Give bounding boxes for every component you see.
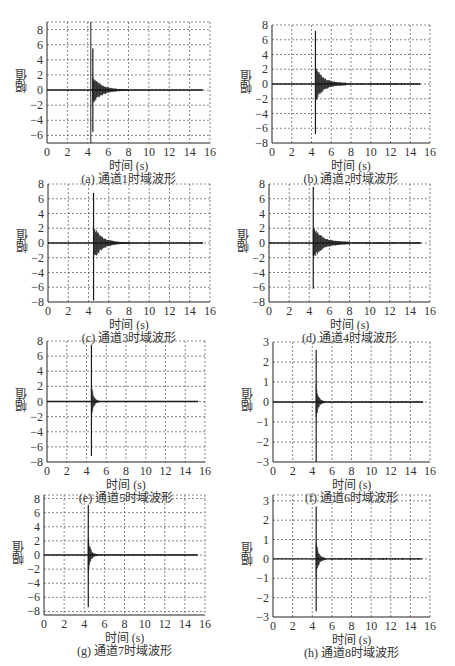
waveform [272, 31, 420, 134]
y-tick-label: −6 [30, 128, 43, 142]
y-tick-label: 0 [263, 395, 269, 409]
y-tick-label: 4 [38, 207, 44, 221]
y-axis-label: 幅值 [14, 229, 31, 253]
y-tick-label: 8 [259, 177, 265, 191]
waveform [273, 350, 423, 462]
y-tick-label: −3 [256, 610, 269, 624]
y-tick-label: 4 [262, 48, 268, 62]
y-axis-label: 幅值 [239, 388, 256, 412]
y-tick-label: −4 [255, 107, 268, 121]
plot-area: 0246810121416−3−2−10123 [273, 342, 430, 462]
y-tick-label: −8 [255, 136, 268, 150]
panel-caption: (g) 通道7时域波形 [44, 641, 205, 659]
y-tick-label: 2 [37, 68, 43, 82]
y-tick-label: −2 [256, 435, 269, 449]
waveform [48, 193, 203, 301]
y-tick-label: 2 [263, 355, 269, 369]
chart-panel-a: 0246810121416−6−4−202468 [47, 22, 210, 143]
y-tick-label: −2 [256, 591, 269, 605]
y-tick-label: 4 [37, 53, 43, 67]
y-tick-label: 2 [38, 221, 44, 235]
y-tick-label: 2 [263, 513, 269, 527]
plot-area: 0246810121416−8−6−4−202468 [272, 25, 430, 143]
y-tick-label: 4 [34, 520, 40, 534]
y-tick-label: −8 [31, 295, 44, 309]
chart-panel-g: 0246810121416−8−6−4−202468 [44, 495, 205, 615]
y-tick-label: −4 [30, 425, 43, 439]
chart-panel-d: 0246810121416−8−6−4−202468 [269, 184, 430, 302]
y-tick-label: −6 [27, 590, 40, 604]
y-tick-label: 8 [262, 18, 268, 32]
y-tick-label: −8 [252, 295, 265, 309]
y-tick-label: −2 [30, 98, 43, 112]
y-tick-label: 8 [38, 177, 44, 191]
panel-caption: (h) 通道8时域波形 [273, 643, 430, 661]
plot-area: 0246810121416−8−6−4−202468 [48, 184, 210, 302]
y-tick-label: 8 [37, 23, 43, 37]
plot-area: 0246810121416−8−6−4−202468 [47, 341, 205, 462]
y-tick-label: −6 [31, 280, 44, 294]
y-tick-label: −1 [256, 571, 269, 585]
plot-area: 0246810121416−6−4−202468 [47, 22, 210, 143]
y-tick-label: −8 [30, 455, 43, 469]
waveform [47, 48, 203, 131]
y-axis-label: 幅值 [13, 69, 30, 93]
chart-panel-f: 0246810121416−3−2−10123 [273, 342, 430, 462]
y-tick-label: 1 [263, 533, 269, 547]
y-tick-label: 8 [34, 492, 40, 506]
y-axis-label: 幅值 [239, 542, 256, 566]
chart-panel-e: 0246810121416−8−6−4−202468 [47, 341, 205, 462]
chart-panel-h: 0246810121416−3−2−10123 [273, 495, 430, 617]
y-tick-label: −1 [256, 415, 269, 429]
y-tick-label: 0 [262, 77, 268, 91]
y-tick-label: −4 [31, 266, 44, 280]
waveform [47, 345, 198, 456]
y-axis-label: 幅值 [13, 388, 30, 412]
y-tick-label: 6 [262, 33, 268, 47]
y-axis-label: 幅值 [10, 541, 27, 565]
waveform [269, 187, 421, 289]
y-tick-label: −3 [256, 455, 269, 469]
y-tick-label: −6 [252, 280, 265, 294]
y-axis-label: 幅值 [235, 229, 252, 253]
y-tick-label: 2 [259, 221, 265, 235]
y-tick-label: 6 [37, 38, 43, 52]
y-tick-label: −2 [252, 251, 265, 265]
y-tick-label: 8 [37, 334, 43, 348]
y-tick-label: 6 [259, 192, 265, 206]
y-tick-label: −2 [30, 410, 43, 424]
plot-area: 0246810121416−3−2−10123 [273, 495, 430, 617]
y-tick-label: −4 [30, 113, 43, 127]
waveform [273, 507, 422, 612]
y-tick-label: 0 [37, 395, 43, 409]
grid [273, 495, 430, 617]
y-tick-label: −2 [255, 92, 268, 106]
y-tick-label: 3 [263, 335, 269, 349]
y-tick-label: −8 [27, 604, 40, 618]
y-tick-label: 2 [37, 379, 43, 393]
y-axis-label: 幅值 [238, 70, 255, 94]
plot-area: 0246810121416−8−6−4−202468 [269, 184, 430, 302]
chart-panel-b: 0246810121416−8−6−4−202468 [272, 25, 430, 143]
y-tick-label: 6 [37, 349, 43, 363]
y-tick-label: 2 [34, 534, 40, 548]
y-tick-label: −6 [255, 121, 268, 135]
y-tick-label: 6 [34, 506, 40, 520]
y-tick-label: −4 [252, 266, 265, 280]
plot-area: 0246810121416−8−6−4−202468 [44, 495, 205, 615]
chart-panel-c: 0246810121416−8−6−4−202468 [48, 184, 210, 302]
y-tick-label: 0 [259, 236, 265, 250]
y-tick-label: −6 [30, 440, 43, 454]
y-tick-label: 4 [37, 364, 43, 378]
y-tick-label: 2 [262, 62, 268, 76]
y-tick-label: −2 [27, 562, 40, 576]
y-tick-label: −4 [27, 576, 40, 590]
y-tick-label: 4 [259, 207, 265, 221]
y-tick-label: 1 [263, 375, 269, 389]
y-tick-label: 0 [38, 236, 44, 250]
y-tick-label: 0 [34, 548, 40, 562]
y-tick-label: 3 [263, 494, 269, 508]
y-tick-label: 0 [37, 83, 43, 97]
grid [47, 22, 210, 143]
waveform [44, 505, 198, 607]
